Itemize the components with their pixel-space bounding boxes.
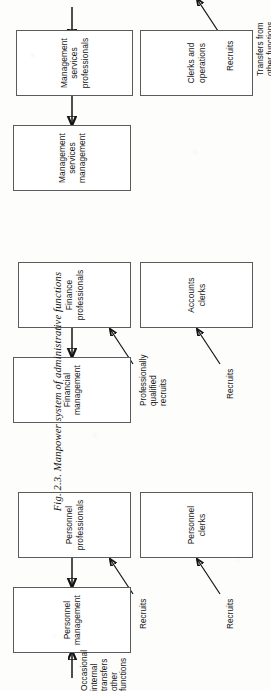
box-financial-management[interactable]: Financial management bbox=[13, 357, 131, 423]
manpower-system-diagram: Personnel management Personnel professio… bbox=[0, 0, 271, 691]
label-occasional-internal-transfers: Occasional internal transfers other func… bbox=[80, 651, 129, 691]
box-accounts-clerks[interactable]: Accounts clerks bbox=[140, 262, 253, 328]
box-personnel-clerks[interactable]: Personnel clerks bbox=[140, 492, 253, 558]
box-clerks-and-operations[interactable]: Clerks and operations bbox=[140, 30, 253, 96]
figure-caption: Fig. 2.3. Manpower system of administrat… bbox=[52, 272, 63, 512]
label-recruits-clerks-and-operations: Recruits bbox=[226, 25, 236, 71]
figure-rotation-wrapper: Personnel management Personnel professio… bbox=[0, 0, 271, 691]
box-personnel-professionals[interactable]: Personnel professionals bbox=[18, 492, 131, 558]
box-personnel-management[interactable]: Personnel management bbox=[13, 587, 131, 653]
label-recruits-personnel-clerks: Recruits bbox=[226, 583, 236, 629]
label-recruits-personnel-professionals: Recruits bbox=[139, 583, 149, 629]
label-professionally-qualified-recruits: Professionally qualified recruits bbox=[139, 360, 169, 406]
label-transfers-from-other-functions: Transfers from other functions bbox=[256, 4, 271, 76]
scanned-page: Personnel management Personnel professio… bbox=[0, 0, 271, 691]
box-management-services-professionals[interactable]: Management services professionals bbox=[16, 30, 133, 96]
label-recruits-accounts-clerks: Recruits bbox=[226, 353, 236, 399]
box-finance-professionals[interactable]: Finance professionals bbox=[18, 262, 131, 328]
box-management-services-management[interactable]: Management services management bbox=[13, 125, 131, 191]
